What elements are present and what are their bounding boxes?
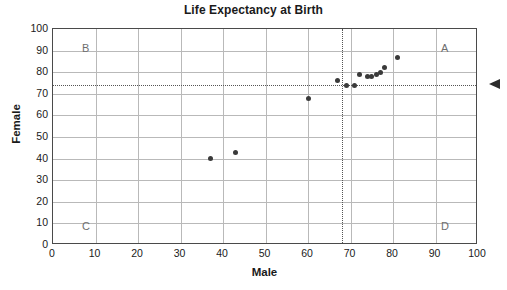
gridline-horizontal	[53, 51, 476, 52]
x-tick-label: 30	[160, 248, 200, 259]
data-point	[357, 72, 362, 77]
y-axis-label: Female	[10, 84, 22, 164]
x-axis-label: Male	[52, 266, 477, 278]
data-point	[378, 70, 383, 75]
data-point	[208, 156, 213, 161]
x-tick-label: 80	[372, 248, 412, 259]
x-tick-label: 10	[75, 248, 115, 259]
gridline-horizontal	[53, 202, 476, 203]
x-tick-label: 70	[330, 248, 370, 259]
x-tick-label: 50	[245, 248, 285, 259]
gridline-vertical	[351, 29, 352, 243]
gridline-vertical	[138, 29, 139, 243]
quadrant-label-a: A	[441, 42, 448, 54]
gridline-vertical	[266, 29, 267, 243]
quadrant-label-c: C	[82, 220, 90, 232]
x-tick-label: 0	[32, 248, 72, 259]
gridline-horizontal	[53, 223, 476, 224]
data-point	[306, 96, 311, 101]
x-tick-label: 40	[202, 248, 242, 259]
data-point	[344, 83, 349, 88]
chart-title: Life Expectancy at Birth	[0, 3, 507, 17]
y-tick-label: 20	[14, 196, 48, 207]
gridline-vertical	[308, 29, 309, 243]
x-tick-label: 60	[287, 248, 327, 259]
data-point	[395, 55, 400, 60]
y-tick-label: 90	[14, 45, 48, 56]
gridline-vertical	[436, 29, 437, 243]
quadrant-label-d: D	[441, 220, 449, 232]
data-point	[335, 78, 340, 83]
quadrant-label-b: B	[82, 42, 89, 54]
x-tick-label: 90	[415, 248, 455, 259]
x-tick-label: 20	[117, 248, 157, 259]
gridline-horizontal	[53, 94, 476, 95]
y-tick-label: 10	[14, 217, 48, 228]
reference-line-vertical	[342, 29, 343, 243]
data-point	[352, 83, 357, 88]
gridline-horizontal	[53, 72, 476, 73]
x-tick-label: 100	[457, 248, 497, 259]
y-tick-label: 100	[14, 23, 48, 34]
gridline-vertical	[393, 29, 394, 243]
y-tick-label: 30	[14, 174, 48, 185]
data-point	[233, 150, 238, 155]
reference-line-horizontal	[53, 85, 476, 86]
gridline-horizontal	[53, 115, 476, 116]
y-tick-label: 80	[14, 66, 48, 77]
gridline-horizontal	[53, 180, 476, 181]
x-axis-ticks: 0102030405060708090100	[52, 248, 477, 262]
gridline-horizontal	[53, 159, 476, 160]
gridline-vertical	[223, 29, 224, 243]
data-point	[382, 65, 387, 70]
gridline-vertical	[181, 29, 182, 243]
plot-area: BACD	[52, 28, 477, 244]
scatter-chart: Life Expectancy at Birth BACD 0102030405…	[0, 0, 507, 290]
reference-line-arrow-icon	[489, 79, 500, 89]
gridline-vertical	[96, 29, 97, 243]
gridline-horizontal	[53, 137, 476, 138]
